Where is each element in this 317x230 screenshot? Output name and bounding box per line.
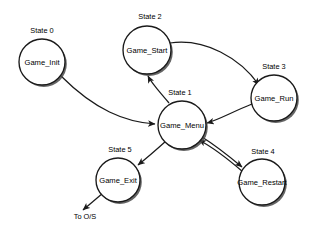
state-name-game-init: Game_Init (24, 58, 60, 67)
state-name-game-restart: Game_Restart (237, 178, 287, 187)
state-index-game-restart: State 4 (251, 147, 274, 156)
state-node-game-exit[interactable]: Game_Exit State 5 (96, 145, 142, 204)
state-name-game-exit: Game_Exit (99, 176, 137, 185)
transition-game-run-to-game-menu (207, 104, 252, 123)
state-node-game-restart[interactable]: Game_Restart State 4 (237, 147, 287, 207)
state-node-game-menu[interactable]: Game_Menu State 1 (158, 88, 208, 151)
terminals-layer: To O/S (74, 212, 97, 221)
states-layer: Game_Init State 0 Game_Start State 2 Gam… (19, 12, 299, 207)
terminal-label-to-os: To O/S (74, 212, 97, 221)
state-node-game-init[interactable]: Game_Init State 0 (19, 26, 67, 87)
transition-game-init-to-game-menu (61, 76, 155, 124)
state-node-game-start[interactable]: Game_Start State 2 (123, 12, 173, 76)
state-index-game-init: State 0 (30, 26, 53, 35)
state-node-game-run[interactable]: Game_Run State 3 (251, 62, 299, 123)
state-index-game-exit: State 5 (108, 145, 131, 154)
state-machine-diagram: Game_Init State 0 Game_Start State 2 Gam… (0, 0, 317, 230)
transition-game-menu-to-game-restart (202, 137, 242, 167)
state-name-game-start: Game_Start (127, 46, 169, 55)
state-index-game-menu: State 1 (168, 88, 191, 97)
transition-game-menu-to-game-start (148, 76, 169, 103)
state-name-game-menu: Game_Menu (160, 121, 204, 130)
state-index-game-start: State 2 (138, 12, 161, 21)
transition-game-restart-to-game-menu (199, 140, 243, 172)
transition-game-menu-to-game-exit (138, 141, 166, 165)
state-name-game-run: Game_Run (255, 94, 294, 103)
transition-game-exit-to-os (83, 193, 103, 210)
transition-game-start-to-game-run (170, 42, 259, 85)
state-index-game-run: State 3 (262, 62, 285, 71)
state-diagram-canvas: Game_Init State 0 Game_Start State 2 Gam… (0, 0, 317, 230)
